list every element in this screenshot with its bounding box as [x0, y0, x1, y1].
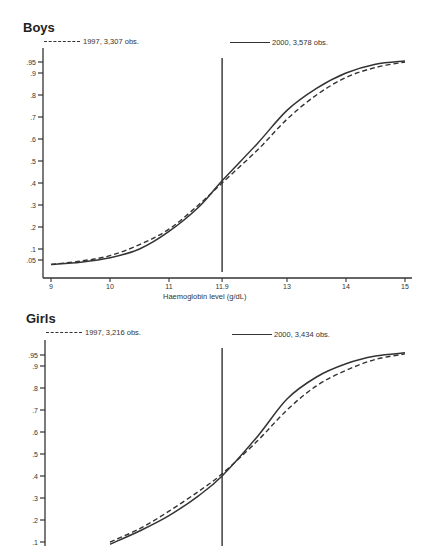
boys-x-tick-label: 13 — [283, 283, 291, 290]
boys-x-tick-label: 10 — [106, 283, 114, 290]
boys-y-tick-label: .6 — [30, 136, 36, 143]
boys-y-tick-label: .1 — [30, 246, 36, 253]
boys-x-tick-label: 14 — [342, 283, 350, 290]
boys-series-1997-line — [51, 62, 405, 264]
boys-y-tick-label: .2 — [30, 224, 36, 231]
girls-y-tick-label: .95 — [28, 352, 38, 359]
boys-y-tick-label: .5 — [30, 158, 36, 165]
girls-series-2000-line — [110, 353, 405, 544]
boys-y-tick-label: .9 — [30, 70, 36, 77]
boys-y-tick-label: .3 — [30, 202, 36, 209]
boys-x-tick-label: 11 — [165, 283, 172, 290]
girls-y-tick-label: .6 — [32, 429, 38, 436]
girls-y-tick-label: .9 — [32, 363, 38, 370]
chart-canvas: .05.1.2.3.4.5.6.7.8.9.959101111.9131415.… — [0, 0, 439, 546]
boys-series-2000-line — [51, 61, 405, 265]
girls-y-tick-label: .4 — [32, 473, 38, 480]
girls-y-tick-label: .3 — [32, 495, 38, 502]
girls-y-tick-label: .2 — [32, 517, 38, 524]
boys-x-tick-label: 15 — [401, 283, 409, 290]
girls-y-tick-label: .8 — [32, 385, 38, 392]
girls-series-1997-line — [110, 354, 405, 542]
girls-y-tick-label: .5 — [32, 451, 38, 458]
girls-y-tick-label: .7 — [32, 407, 38, 414]
boys-y-tick-label: .05 — [26, 257, 36, 264]
boys-x-tick-label: 11.9 — [216, 283, 229, 290]
boys-y-tick-label: .7 — [30, 114, 36, 121]
boys-x-tick-label: 9 — [49, 283, 53, 290]
boys-y-tick-label: .4 — [30, 180, 36, 187]
boys-y-tick-label: .95 — [26, 59, 36, 66]
girls-y-tick-label: .1 — [32, 539, 38, 546]
boys-y-tick-label: .8 — [30, 92, 36, 99]
